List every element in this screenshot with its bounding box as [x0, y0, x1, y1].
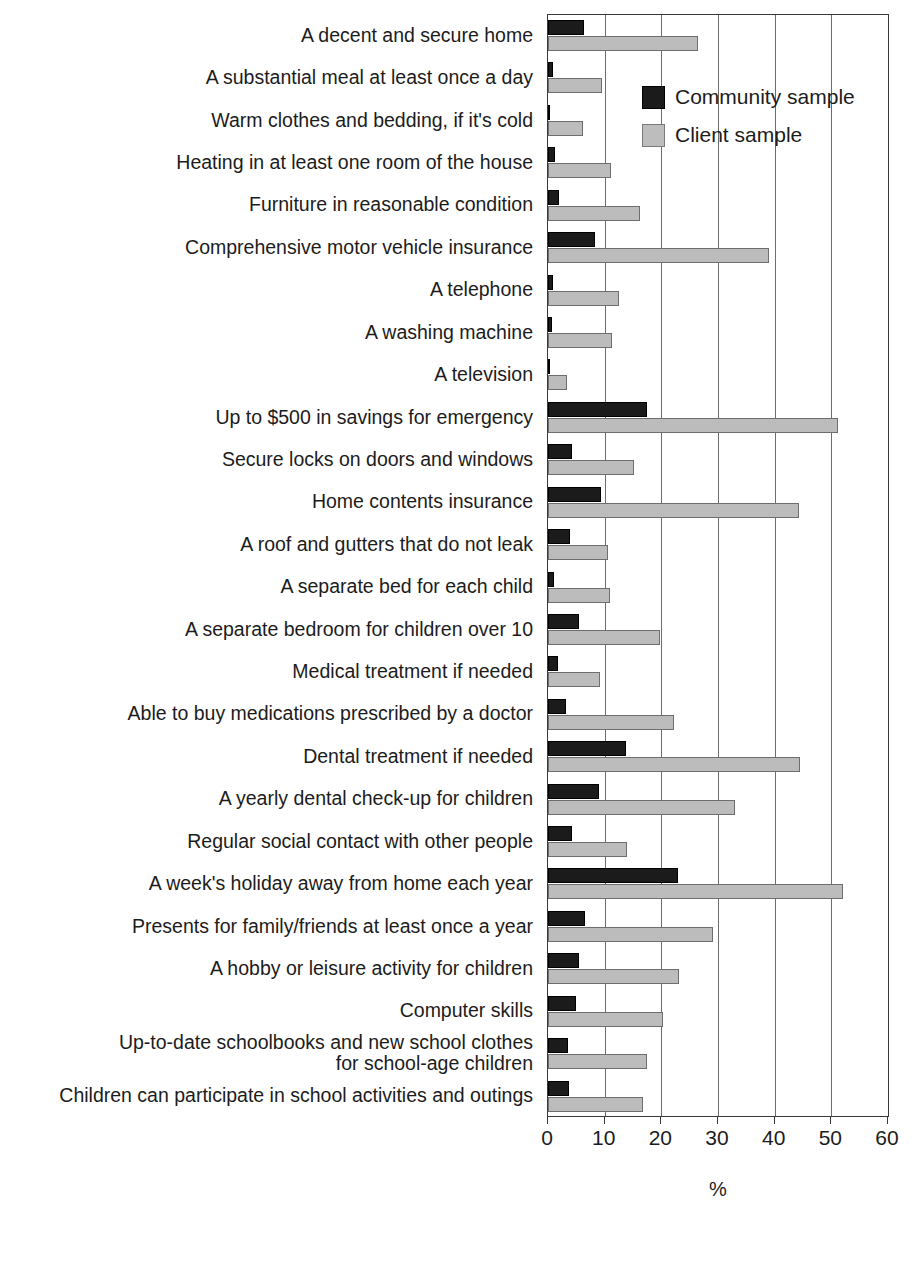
category-label-text: A decent and secure home	[301, 25, 533, 46]
gridline-20	[661, 15, 662, 1116]
category-label-text: Able to buy medications prescribed by a …	[128, 703, 533, 724]
bar-client	[548, 1054, 647, 1069]
x-axis-title: %	[547, 1178, 889, 1201]
x-tick-40	[774, 1117, 775, 1124]
x-tick-10	[604, 1117, 605, 1124]
gridline-50	[831, 15, 832, 1116]
x-tick-label-40: 40	[762, 1126, 785, 1150]
bar-client	[548, 842, 627, 857]
x-tick-label-20: 20	[649, 1126, 672, 1150]
bar-community	[548, 1038, 568, 1053]
gridline-30	[718, 15, 719, 1116]
bar-client	[548, 78, 602, 93]
bar-client	[548, 884, 843, 899]
category-label: A decent and secure home	[0, 14, 533, 56]
bar-client	[548, 333, 612, 348]
category-label: Medical treatment if needed	[0, 650, 533, 692]
legend-entry-client: Client sample	[642, 116, 882, 154]
category-label: Up-to-date schoolbooks and new school cl…	[0, 1032, 533, 1074]
bar-client	[548, 588, 610, 603]
category-label: Dental treatment if needed	[0, 735, 533, 777]
bar-client	[548, 248, 769, 263]
bar-client	[548, 375, 567, 390]
category-label: A week's holiday away from home each yea…	[0, 862, 533, 904]
category-label-text: Heating in at least one room of the hous…	[176, 152, 533, 173]
bar-community	[548, 614, 579, 629]
bar-community	[548, 62, 553, 77]
x-tick-label-30: 30	[705, 1126, 728, 1150]
bar-client	[548, 1012, 663, 1027]
category-label-text: Secure locks on doors and windows	[222, 449, 533, 470]
category-label: Furniture in reasonable condition	[0, 184, 533, 226]
gridline-10	[605, 15, 606, 1116]
bar-client	[548, 121, 583, 136]
category-label: Comprehensive motor vehicle insurance	[0, 226, 533, 268]
category-label-text: Up to $500 in savings for emergency	[215, 407, 533, 428]
category-label-text: A telephone	[430, 279, 533, 300]
category-label-text: A substantial meal at least once a day	[206, 67, 533, 88]
category-label: A separate bedroom for children over 10	[0, 608, 533, 650]
bar-chart-figure: A decent and secure homeA substantial me…	[0, 0, 914, 1266]
category-label-text: Comprehensive motor vehicle insurance	[185, 237, 533, 258]
bar-client	[548, 800, 735, 815]
bar-community	[548, 784, 599, 799]
category-label: Home contents insurance	[0, 481, 533, 523]
bar-client	[548, 36, 698, 51]
category-label: A separate bed for each child	[0, 566, 533, 608]
category-label-text: Medical treatment if needed	[292, 661, 533, 682]
bar-community	[548, 953, 579, 968]
category-label-text: Home contents insurance	[312, 491, 533, 512]
bar-community	[548, 741, 626, 756]
category-label-text: Computer skills	[400, 1000, 533, 1021]
client-swatch	[642, 124, 665, 147]
x-tick-30	[717, 1117, 718, 1124]
category-label: Up to $500 in savings for emergency	[0, 396, 533, 438]
x-tick-label-10: 10	[592, 1126, 615, 1150]
bar-community	[548, 402, 647, 417]
category-label-text: Children can participate in school activ…	[59, 1085, 533, 1106]
bar-community	[548, 190, 559, 205]
category-label-text: A hobby or leisure activity for children	[210, 958, 533, 979]
bar-client	[548, 927, 713, 942]
category-label-text: A television	[434, 364, 533, 385]
bar-community	[548, 444, 572, 459]
x-tick-0	[547, 1117, 548, 1124]
category-label: Warm clothes and bedding, if it's cold	[0, 99, 533, 141]
bar-community	[548, 572, 554, 587]
legend-entry-community: Community sample	[642, 78, 882, 116]
category-label: Children can participate in school activ…	[0, 1075, 533, 1117]
x-tick-label-60: 60	[875, 1126, 898, 1150]
category-label: Able to buy medications prescribed by a …	[0, 693, 533, 735]
category-label-text: A washing machine	[365, 322, 533, 343]
x-tick-50	[830, 1117, 831, 1124]
category-label-text: Dental treatment if needed	[303, 746, 533, 767]
x-tick-60	[887, 1117, 888, 1124]
chart-legend: Community sampleClient sample	[642, 78, 882, 154]
category-label-text: A yearly dental check-up for children	[219, 788, 533, 809]
category-label-text: Presents for family/friends at least onc…	[132, 916, 533, 937]
category-label: Computer skills	[0, 990, 533, 1032]
bar-client	[548, 163, 611, 178]
bar-client	[548, 969, 679, 984]
bar-community	[548, 232, 595, 247]
bar-client	[548, 503, 799, 518]
bar-community	[548, 317, 552, 332]
x-tick-20	[660, 1117, 661, 1124]
title-remnant	[0, 0, 914, 12]
category-label-text: Up-to-date schoolbooks and new school cl…	[119, 1032, 533, 1074]
category-label: Presents for family/friends at least onc…	[0, 905, 533, 947]
category-label-text: Regular social contact with other people	[187, 831, 533, 852]
legend-label: Community sample	[675, 85, 855, 109]
category-label-column: A decent and secure homeA substantial me…	[0, 14, 541, 1117]
category-label: A hobby or leisure activity for children	[0, 947, 533, 989]
category-label-text: Warm clothes and bedding, if it's cold	[211, 110, 533, 131]
bar-client	[548, 672, 600, 687]
category-label: A roof and gutters that do not leak	[0, 523, 533, 565]
category-label: A telephone	[0, 269, 533, 311]
bar-community	[548, 699, 566, 714]
bar-community	[548, 996, 576, 1011]
bar-community	[548, 656, 558, 671]
x-axis: 0102030405060	[547, 1117, 889, 1157]
category-label: Regular social contact with other people	[0, 820, 533, 862]
bar-client	[548, 291, 619, 306]
